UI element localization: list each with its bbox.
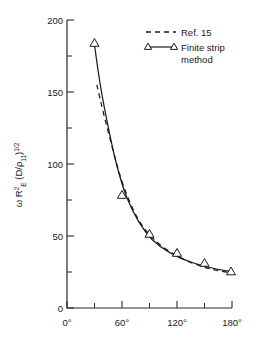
x-axis-ticks bbox=[67, 301, 232, 308]
legend-label-finite-strip-line2: method bbox=[181, 54, 213, 65]
y-axis-ticks bbox=[67, 20, 74, 308]
x-axis-ticklabels: 0° 60° 120° 180° bbox=[62, 317, 242, 328]
legend-label-ref15: Ref. 15 bbox=[181, 27, 212, 38]
figure-container: 200 150 100 50 0 0° 60° 120° 180° ω R2E bbox=[0, 0, 260, 352]
series-finite-strip bbox=[90, 39, 236, 275]
chart-svg: 200 150 100 50 0 0° 60° 120° 180° ω R2E bbox=[0, 0, 260, 352]
y-axis-ticklabels: 200 150 100 50 0 bbox=[47, 15, 63, 314]
y-ticklabel-200: 200 bbox=[47, 15, 63, 26]
ylabel-group: (D/ bbox=[13, 167, 24, 180]
x-ticklabel-60: 60° bbox=[115, 317, 130, 328]
x-ticklabel-0: 0° bbox=[62, 317, 71, 328]
legend-marker-left-icon bbox=[144, 43, 151, 49]
chart-legend: Ref. 15 Finite strip method bbox=[144, 27, 224, 65]
y-ticklabel-0: 0 bbox=[58, 303, 63, 314]
series-ref15 bbox=[97, 85, 232, 273]
marker-point-150deg bbox=[200, 259, 209, 267]
ref15-curve bbox=[97, 85, 232, 273]
legend-label-finite-strip: Finite strip bbox=[181, 42, 225, 53]
svg-text:ω R2E (D/ρ11)1/2: ω R2E (D/ρ11)1/2 bbox=[13, 142, 27, 207]
x-ticklabel-120: 120° bbox=[167, 317, 187, 328]
ylabel-exp: 1/2 bbox=[13, 142, 20, 151]
x-ticklabel-180: 180° bbox=[222, 317, 242, 328]
legend-marker-right-icon bbox=[170, 43, 177, 49]
y-ticklabel-50: 50 bbox=[52, 231, 63, 242]
y-axis-label: ω R2E (D/ρ11)1/2 bbox=[13, 142, 27, 207]
y-ticklabel-150: 150 bbox=[47, 87, 63, 98]
ylabel-r-sup: 2 bbox=[13, 186, 20, 190]
data-markers bbox=[90, 39, 236, 275]
y-ticklabel-100: 100 bbox=[47, 159, 63, 170]
finite-strip-curve bbox=[95, 45, 232, 272]
marker-point-30deg bbox=[90, 39, 99, 47]
marker-point-120deg bbox=[173, 249, 182, 257]
legend-entry-finite-strip: Finite strip method bbox=[144, 42, 224, 65]
legend-entry-ref15: Ref. 15 bbox=[146, 27, 212, 38]
